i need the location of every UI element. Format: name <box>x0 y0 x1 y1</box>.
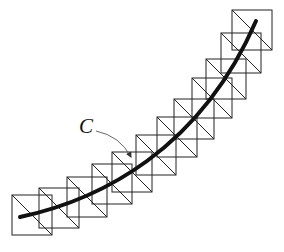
curve-label-c: C <box>79 114 94 138</box>
curve-cover-diagram: C <box>0 0 284 252</box>
square-cover-group <box>12 10 272 235</box>
